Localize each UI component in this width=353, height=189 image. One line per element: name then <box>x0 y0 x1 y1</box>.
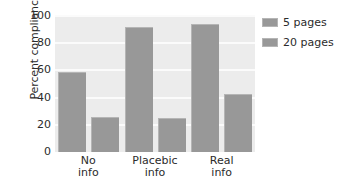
bar <box>224 94 252 152</box>
bar <box>158 118 186 152</box>
legend-label: 5 pages <box>283 17 327 29</box>
plot-area <box>55 16 255 152</box>
bar <box>125 27 153 152</box>
bar-group <box>125 16 186 152</box>
legend-swatch-icon <box>262 38 278 47</box>
legend-item: 20 pages <box>262 34 352 51</box>
y-axis-tick-label: 80 <box>25 38 51 48</box>
x-tick-line2: info <box>182 167 262 179</box>
y-axis-tick-label: 60 <box>25 65 51 75</box>
bar <box>58 72 86 152</box>
x-axis-tick-labels: NoinfoPlacebicinfoRealinfo <box>55 155 255 187</box>
legend-swatch-icon <box>262 18 278 27</box>
y-axis-tick-label: 100 <box>25 11 51 21</box>
y-axis-tick-label: 20 <box>25 120 51 130</box>
legend: 5 pages20 pages <box>262 14 352 54</box>
bar-chart-figure: Percent compliance 100806040200 NoinfoPl… <box>0 0 353 189</box>
y-axis-tick-label: 0 <box>25 147 51 157</box>
bar-group <box>58 16 119 152</box>
legend-item: 5 pages <box>262 14 352 31</box>
legend-label: 20 pages <box>283 37 334 49</box>
x-axis-tick-label: Realinfo <box>182 155 262 179</box>
bar <box>91 117 119 152</box>
y-axis-tick-labels: 100806040200 <box>20 16 51 152</box>
y-axis-tick-label: 40 <box>25 93 51 103</box>
bar <box>191 24 219 152</box>
bar-group <box>191 16 252 152</box>
